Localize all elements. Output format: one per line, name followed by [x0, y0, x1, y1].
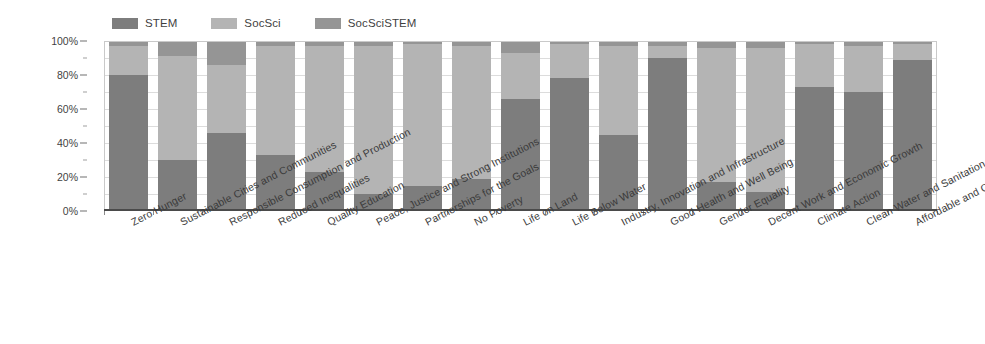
x-axis-labels: Zero HungerSustainable Cities and Commun…	[0, 211, 985, 344]
y-tick-mark-minor	[83, 160, 87, 161]
legend-item-stem[interactable]: STEM	[112, 17, 177, 29]
legend-label: SocSciSTEM	[348, 17, 417, 29]
y-tick-mark-minor	[83, 92, 87, 93]
chart-legend: STEMSocSciSocSciSTEM	[112, 14, 417, 32]
y-tick-label: 40%	[57, 137, 78, 149]
stacked-bar-chart: STEMSocSciSocSciSTEM 0%20%40%60%80%100% …	[0, 0, 985, 344]
legend-item-socscistem[interactable]: SocSciSTEM	[315, 17, 417, 29]
y-tick-mark-minor	[83, 58, 87, 59]
bar-group[interactable]	[550, 41, 589, 211]
bar-segment-socscistem[interactable]	[795, 41, 834, 44]
y-tick-mark-minor	[83, 126, 87, 127]
legend-label: STEM	[145, 17, 177, 29]
bar-segment-socscistem[interactable]	[550, 41, 589, 44]
y-axis: 0%20%40%60%80%100%	[0, 41, 104, 211]
y-tick-mark	[80, 143, 87, 144]
bar-segment-socscistem[interactable]	[452, 41, 491, 46]
bar-segment-socsci[interactable]	[893, 44, 932, 59]
bar-group[interactable]	[109, 41, 148, 211]
bar-segment-socsci[interactable]	[403, 44, 442, 185]
bar-segment-socsci[interactable]	[256, 46, 295, 155]
bar-segment-socsci[interactable]	[599, 46, 638, 134]
bar-segment-socscistem[interactable]	[501, 41, 540, 53]
y-tick-mark	[80, 41, 87, 42]
bars-layer	[104, 41, 937, 211]
y-tick-mark-minor	[83, 194, 87, 195]
bar-segment-socscistem[interactable]	[893, 41, 932, 44]
bar-segment-socscistem[interactable]	[207, 41, 246, 65]
legend-item-socsci[interactable]: SocSci	[211, 17, 280, 29]
plot-area	[104, 41, 937, 211]
bar-segment-socsci[interactable]	[550, 44, 589, 78]
bar-segment-socscistem[interactable]	[697, 41, 736, 48]
bar-segment-socsci[interactable]	[207, 65, 246, 133]
bar-segment-socscistem[interactable]	[158, 41, 197, 56]
legend-label: SocSci	[244, 17, 280, 29]
bar-segment-stem[interactable]	[109, 75, 148, 211]
y-tick-mark	[80, 109, 87, 110]
bar-segment-socsci[interactable]	[648, 46, 687, 58]
bar-segment-socscistem[interactable]	[648, 41, 687, 46]
bar-segment-socscistem[interactable]	[305, 41, 344, 46]
bar-segment-socscistem[interactable]	[403, 41, 442, 44]
bar-segment-socscistem[interactable]	[354, 41, 393, 46]
bar-segment-socscistem[interactable]	[746, 41, 785, 48]
y-tick-label: 100%	[51, 35, 78, 47]
bar-segment-socsci[interactable]	[109, 46, 148, 75]
legend-swatch-icon	[211, 18, 237, 29]
bar-segment-socsci[interactable]	[844, 46, 883, 92]
y-tick-label: 60%	[57, 103, 78, 115]
bar-segment-socsci[interactable]	[501, 53, 540, 99]
y-tick-label: 80%	[57, 69, 78, 81]
bar-segment-socscistem[interactable]	[844, 41, 883, 46]
bar-group[interactable]	[158, 41, 197, 211]
y-tick-mark	[80, 75, 87, 76]
bar-segment-socsci[interactable]	[158, 56, 197, 160]
bar-segment-socsci[interactable]	[354, 46, 393, 194]
bar-segment-socscistem[interactable]	[256, 41, 295, 46]
y-tick-mark	[80, 177, 87, 178]
legend-swatch-icon	[315, 18, 341, 29]
legend-swatch-icon	[112, 18, 138, 29]
bar-segment-socsci[interactable]	[795, 44, 834, 87]
bar-segment-socsci[interactable]	[452, 46, 491, 179]
bar-segment-socscistem[interactable]	[599, 41, 638, 46]
y-tick-label: 20%	[57, 171, 78, 183]
bar-segment-socscistem[interactable]	[109, 41, 148, 46]
